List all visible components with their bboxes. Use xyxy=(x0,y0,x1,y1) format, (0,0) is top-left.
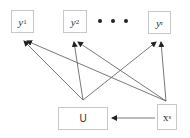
edge-xs-yr xyxy=(161,42,166,101)
node-u-label: U xyxy=(79,113,86,124)
node-yr-sub: r xyxy=(161,19,163,27)
ellipsis-dots xyxy=(98,19,128,23)
node-xs: xs xyxy=(157,104,177,130)
node-y1: y1 xyxy=(11,10,34,33)
edge-u-yr xyxy=(83,42,156,100)
node-y2: y2 xyxy=(63,10,87,33)
node-u: U xyxy=(58,107,108,130)
node-yr: yr xyxy=(148,11,171,34)
dot-icon xyxy=(98,19,102,23)
node-y2-sub: 2 xyxy=(76,18,80,26)
node-y1-sub: 1 xyxy=(23,18,27,26)
edge-xs-y2 xyxy=(78,42,166,101)
node-xs-sub: s xyxy=(168,113,171,121)
dot-icon xyxy=(124,19,128,23)
edge-u-y1 xyxy=(24,41,83,100)
dot-icon xyxy=(111,19,115,23)
edge-xs-y1 xyxy=(27,41,166,101)
edge-u-y2 xyxy=(74,42,83,100)
